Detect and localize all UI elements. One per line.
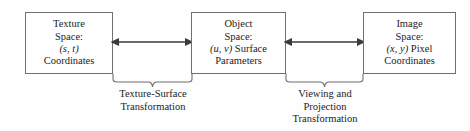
texture-space-coordinate-symbols: (s, t): [59, 43, 78, 55]
texture-space-box: Texture Space: (s, t) Coordinates: [25, 12, 113, 74]
viewing-projection-brace-icon: [285, 74, 364, 88]
object-to-image-double-arrow-icon: [285, 33, 364, 51]
texture-mapping-pipeline-diagram: Texture Space: (s, t) Coordinates Object…: [0, 0, 470, 131]
image-space-line-2: Space:: [396, 31, 424, 43]
object-space-box: Object Space: (u, v) Surface Parameters: [191, 12, 286, 74]
image-space-line-3-suffix: Pixel: [408, 43, 432, 54]
object-space-line-3: (u, v) Surface: [210, 43, 267, 55]
image-space-line-1: Image: [396, 18, 422, 30]
texture-surface-caption-line-2: Transformation: [92, 101, 214, 114]
object-space-line-4: Parameters: [215, 55, 262, 67]
viewing-projection-caption-line-3: Transformation: [264, 113, 386, 126]
viewing-projection-caption-line-2: Projection: [264, 101, 386, 114]
texture-space-line-2: Space:: [55, 31, 83, 43]
texture-surface-brace-icon: [112, 74, 193, 88]
image-space-line-3: (x, y) Pixel: [387, 43, 433, 55]
object-space-parameter-symbols: (u, v): [210, 43, 232, 54]
object-space-line-2: Space:: [225, 31, 253, 43]
image-space-box: Image Space: (x, y) Pixel Coordinates: [363, 12, 456, 74]
viewing-projection-transformation-caption: Viewing and Projection Transformation: [264, 88, 386, 126]
texture-space-line-1: Texture: [53, 18, 85, 30]
texture-surface-caption-line-1: Texture-Surface: [92, 88, 214, 101]
viewing-projection-caption-line-1: Viewing and: [264, 88, 386, 101]
image-space-line-4: Coordinates: [384, 55, 435, 67]
object-space-line-3-suffix: Surface: [232, 43, 267, 54]
object-space-line-1: Object: [225, 18, 253, 30]
texture-to-object-double-arrow-icon: [112, 33, 192, 51]
texture-space-line-4: Coordinates: [44, 55, 95, 67]
texture-surface-transformation-caption: Texture-Surface Transformation: [92, 88, 214, 113]
image-space-pixel-symbols: (x, y): [387, 43, 409, 54]
